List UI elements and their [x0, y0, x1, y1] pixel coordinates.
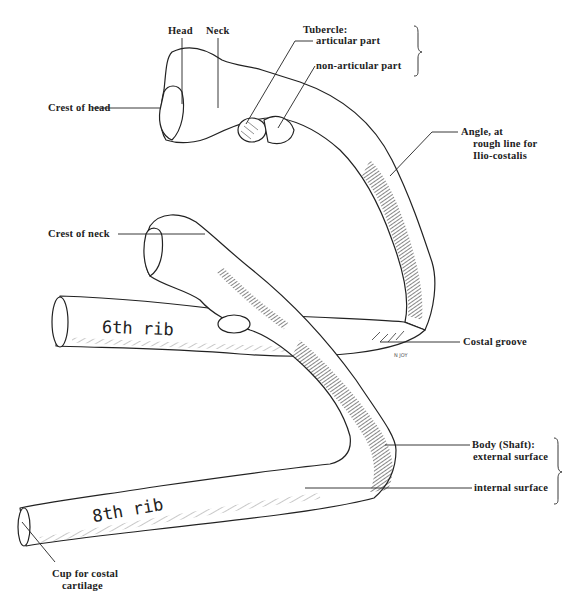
label-angle-line1: Angle, at: [461, 126, 503, 138]
label-neck: Neck: [206, 25, 230, 37]
label-body-shaft: Body (Shaft):: [472, 439, 535, 451]
label-body-internal: internal surface: [474, 482, 548, 494]
label-tubercle-nonarticular: non-articular part: [316, 60, 401, 72]
rib-diagram: 6th rib 8th rib N JOY Head Neck Tubercle…: [0, 0, 580, 608]
braces: [414, 26, 562, 504]
label-cup-line1: Cup for costal: [52, 568, 118, 580]
label-costal-groove: Costal groove: [463, 336, 527, 348]
label-tubercle-articular: articular part: [316, 35, 380, 47]
label-crest-of-neck: Crest of neck: [48, 228, 110, 240]
sixth-rib-label: 6th rib: [102, 317, 174, 339]
label-angle-line3: Ilio-costalis: [473, 150, 527, 162]
tubercle-brace: [414, 26, 422, 76]
rib-illustration: [0, 0, 580, 608]
label-angle-line2: rough line for: [473, 138, 537, 150]
label-body-external: external surface: [473, 451, 548, 463]
eighth-rib-drawing: [18, 215, 396, 546]
label-head: Head: [168, 25, 193, 37]
artist-signature: N JOY: [394, 352, 408, 358]
label-cup-line2: cartilage: [62, 580, 103, 592]
angle-leader: [390, 132, 458, 176]
body-brace: [554, 438, 562, 504]
label-crest-of-head: Crest of head: [48, 102, 110, 114]
